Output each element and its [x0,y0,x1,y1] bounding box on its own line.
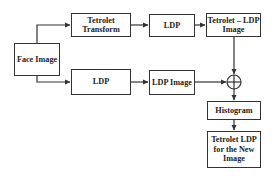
ldp-image-label: LDP Image [152,78,192,88]
tetrolet-ldp-new-image-label: Tetrolet LDP for the New Image [208,135,260,164]
ldp-bottom-label: LDP [93,77,109,87]
face-image-node: Face Image [14,43,60,76]
ldp-bottom-node: LDP [71,69,131,95]
face-image-label: Face Image [17,55,57,65]
combine-xor-icon [227,75,241,89]
ldp-image-node: LDP Image [149,70,195,95]
tetrolet-transform-node: Tetrolet Transform [71,13,131,37]
tetrolet-ldp-new-image-node: Tetrolet LDP for the New Image [207,131,261,168]
edge-face-to-ldp [37,76,70,82]
tetrolet-ldp-image-node: Tetrolet – LDP Image [206,13,261,37]
ldp-top-label: LDP [164,21,180,31]
histogram-node: Histogram [207,101,261,120]
tetrolet-ldp-image-label: Tetrolet – LDP Image [207,16,260,35]
edge-face-to-tetrolet [37,25,70,43]
histogram-label: Histogram [215,106,252,116]
ldp-top-node: LDP [149,14,195,37]
tetrolet-transform-label: Tetrolet Transform [72,16,130,35]
